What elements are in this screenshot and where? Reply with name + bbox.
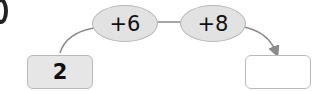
operation-label: +8 [198,12,229,36]
operation-ellipse-2: +8 [180,5,246,42]
result-answer-box[interactable] [245,55,311,89]
operation-label: +6 [110,12,141,36]
start-value: 2 [53,60,68,84]
start-value-box: 2 [27,55,93,89]
connector-op2-to-result [244,27,276,52]
operation-ellipse-1: +6 [92,5,158,42]
connector-start-to-op1 [60,28,94,53]
